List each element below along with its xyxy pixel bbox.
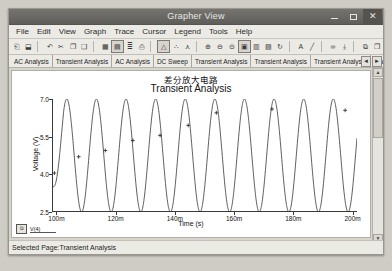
copy-page-button[interactable]: ⧉ <box>360 41 371 52</box>
cursor-tool-button[interactable]: △ <box>157 40 170 53</box>
axis-settings-button[interactable]: ▨ <box>263 41 274 52</box>
y-axis-label: Voltage (V) <box>32 137 39 172</box>
tab-scroll-right-button[interactable]: ► <box>372 56 382 67</box>
tab-dc-sweep[interactable]: DC Sweep <box>154 55 192 67</box>
tab-transient-analysis-2[interactable]: Transient Analysis <box>192 55 252 67</box>
menu-item-trace[interactable]: Trace <box>110 27 138 36</box>
duplicate-page-button[interactable]: ❐ <box>372 41 383 52</box>
plot-area[interactable]: 2.54.05.57.0 100m120m140m160m180m200m <box>52 99 357 212</box>
minimize-button[interactable] <box>325 9 344 24</box>
y-tick-label: 5.5 <box>40 133 49 140</box>
show-legend-button[interactable]: ▤ <box>111 40 124 53</box>
reverse-trace-button[interactable]: ⋏ <box>183 41 194 52</box>
line-tool-button[interactable]: ╱ <box>307 41 318 52</box>
text-tool-button[interactable]: A <box>296 41 307 52</box>
maximize-icon <box>350 14 357 20</box>
tab-scroll-controls: ◄ ► <box>361 56 382 67</box>
menu-item-view[interactable]: View <box>55 27 80 36</box>
x-tick-mark <box>175 212 176 215</box>
legend[interactable]: ⧉ V(4) <box>16 224 56 234</box>
menu-item-legend[interactable]: Legend <box>170 27 205 36</box>
zoom-out-button[interactable]: ⊖ <box>215 41 226 52</box>
trace-marker <box>343 108 347 112</box>
print-button[interactable]: ⎙ <box>137 41 148 52</box>
add-trace-button[interactable]: ∴ <box>171 41 182 52</box>
export-button[interactable]: ⤓ <box>339 41 350 52</box>
tab-ac-analysis-1[interactable]: AC Analysis <box>11 55 53 67</box>
status-text: Selected Page:Transient Analysis <box>12 244 116 251</box>
chart-title-english: Transient Analysis <box>12 83 370 94</box>
grid-toggle-button[interactable]: ▥ <box>252 41 263 52</box>
window-controls: ✕ <box>325 9 382 24</box>
minimize-icon <box>331 18 338 19</box>
toolbar-separator <box>196 41 201 52</box>
x-tick-mark <box>234 212 235 215</box>
toolbar-separator <box>289 41 294 52</box>
grapher-window: Grapher View ✕ File Edit View Graph Trac… <box>8 8 384 255</box>
toolbar-separator <box>150 41 155 52</box>
chart-page[interactable]: 差分放大电路 Transient Analysis Voltage (V) 2.… <box>11 70 371 238</box>
y-tick-mark <box>49 212 52 213</box>
title-bar[interactable]: Grapher View ✕ <box>9 9 383 25</box>
trace-marker <box>52 171 56 175</box>
toolbar-separator <box>93 41 98 52</box>
menu-item-cursor[interactable]: Cursor <box>138 27 170 36</box>
x-tick-mark <box>353 212 354 215</box>
tab-ac-analysis-2[interactable]: AC Analysis <box>112 55 154 67</box>
zoom-fit-button[interactable]: ▣ <box>238 40 251 53</box>
legend-icon: ⧉ <box>16 224 27 234</box>
y-tick-label: 4.0 <box>40 171 49 178</box>
legend-entry: V(4) <box>30 226 56 233</box>
scroll-up-button[interactable]: ▲ <box>373 68 383 77</box>
tab-scroll-left-button[interactable]: ◄ <box>361 56 371 67</box>
trace-marker <box>103 149 107 153</box>
menu-item-graph[interactable]: Graph <box>80 27 110 36</box>
tab-transient-analysis-1[interactable]: Transient Analysis <box>53 55 113 67</box>
menu-item-edit[interactable]: Edit <box>33 27 55 36</box>
zoom-in-button[interactable]: ⊕ <box>203 41 214 52</box>
trace-marker <box>77 155 81 159</box>
status-bar: Selected Page:Transient Analysis <box>9 240 383 254</box>
graph-client-area: 差分放大电路 Transient Analysis Voltage (V) 2.… <box>9 68 383 253</box>
tab-transient-analysis-3[interactable]: Transient Analysis <box>251 55 311 67</box>
vertical-scroll-thumb[interactable] <box>373 78 383 138</box>
toolbar-separator <box>353 41 358 52</box>
paste-button[interactable]: ❑ <box>79 41 90 52</box>
toolbar-separator <box>321 41 326 52</box>
legend-line-sample <box>30 232 56 233</box>
vertical-scrollbar[interactable]: ▲ ▼ <box>372 68 383 243</box>
show-grid-button[interactable]: ▦ <box>100 41 111 52</box>
cut-button[interactable]: ✂ <box>56 41 67 52</box>
undo-button[interactable]: ↶ <box>44 41 55 52</box>
trace-marker <box>131 139 135 143</box>
waveform-trace <box>52 99 357 212</box>
x-tick-mark <box>293 212 294 215</box>
copy-button[interactable]: ❐ <box>68 41 79 52</box>
x-tick-mark <box>116 212 117 215</box>
x-tick-mark <box>56 212 57 215</box>
maximize-button[interactable] <box>344 9 363 24</box>
toolbar: ⎗ ⬓ ↶ ✂ ❐ ❑ ▦ ▤ ≣ ⎙ △ ∴ ⋏ ⊕ ⊖ ⊝ ▣ ▥ ▨ ↻ … <box>9 39 383 55</box>
tab-bar: AC Analysis Transient Analysis AC Analys… <box>9 55 383 68</box>
menu-bar: File Edit View Graph Trace Cursor Legend… <box>9 25 383 39</box>
save-button[interactable]: ⬓ <box>24 41 35 52</box>
toolbar-separator <box>37 41 42 52</box>
menu-item-file[interactable]: File <box>12 27 33 36</box>
x-axis-label: Time (s) <box>12 220 370 227</box>
close-icon: ✕ <box>369 12 377 21</box>
menu-item-tools[interactable]: Tools <box>205 27 232 36</box>
properties-button[interactable]: ≣ <box>125 41 136 52</box>
measure-button[interactable]: ∞ <box>328 41 339 52</box>
screen-root: Grapher View ✕ File Edit View Graph Trac… <box>0 0 392 271</box>
refresh-button[interactable]: ↻ <box>275 41 286 52</box>
menu-item-help[interactable]: Help <box>232 27 256 36</box>
zoom-restore-button[interactable]: ⊝ <box>226 41 237 52</box>
open-file-button[interactable]: ⎗ <box>12 41 23 52</box>
y-tick-label: 7.0 <box>40 96 49 103</box>
close-button[interactable]: ✕ <box>363 9 382 24</box>
